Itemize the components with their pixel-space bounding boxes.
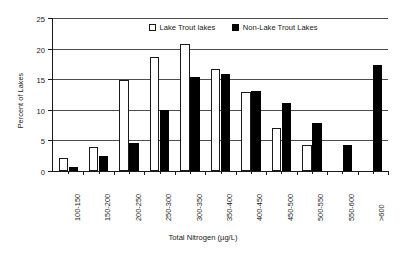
y-axis-title: Percent of Lakes [14,50,28,150]
x-tick [236,171,237,175]
x-tick-minor [68,171,69,174]
y-tick-label-10: 10 [37,106,45,115]
bar [89,147,98,171]
bar-group [327,18,357,171]
x-tick [175,171,176,175]
x-tick-minor [129,171,130,174]
x-tick [358,171,359,175]
bar [272,128,281,171]
bar [180,44,189,171]
x-tick [83,171,84,175]
legend-entry-non-lake-trout-lakes: Non-Lake Trout Lakes [232,23,317,32]
bar [99,156,108,171]
x-axis-title: Total Nitrogen (µg/L) [0,233,406,242]
x-tick-minor [373,171,374,174]
legend-entry-lake-trout-lakes: Lake Trout lakes [149,23,215,32]
bar [302,145,311,171]
bar [59,158,68,171]
x-tick-minor [342,171,343,174]
y-tick-label-15: 15 [37,76,45,85]
x-tick [388,171,389,175]
x-tick [297,171,298,175]
x-tick-minor [221,171,222,174]
bar [160,110,169,171]
bar [282,103,291,171]
bar [129,143,138,171]
x-tick-minor [251,171,252,174]
bar [211,69,220,171]
x-tick-minor [190,171,191,174]
x-tick [327,171,328,175]
bar [119,80,128,171]
bar-group [205,18,235,171]
legend-swatch-filled-icon [232,24,239,31]
x-tick-minor [99,171,100,174]
legend-swatch-open-icon [149,24,156,31]
y-tick-label-0: 0 [41,168,45,177]
bar [150,57,159,171]
bar [241,92,250,171]
bar [312,123,321,171]
x-tick [266,171,267,175]
y-tick-label-5: 5 [41,137,45,146]
x-tick [144,171,145,175]
bar [373,65,382,171]
x-tick-label: >600 [333,178,377,189]
bar [69,167,78,171]
bar-group [175,18,205,171]
y-tick-label-20: 20 [37,45,45,54]
bar-group [358,18,388,171]
nitrogen-histogram-figure: Percent of Lakes 0510152025 Lake Trout l… [0,0,406,253]
bar-group [236,18,266,171]
bar [343,145,352,171]
x-tick [114,171,115,175]
x-tick-label-text: >600 [377,178,386,222]
x-tick [205,171,206,175]
y-tick-0: 0 [48,171,53,172]
legend-label-lake-trout-lakes: Lake Trout lakes [160,23,216,32]
bar-group [53,18,83,171]
y-tick-label-25: 25 [37,15,45,24]
bar-group [83,18,113,171]
chart-legend: Lake Trout lakes Non-Lake Trout Lakes [149,23,317,32]
plot-area: 0510152025 [52,18,388,172]
x-tick-minor [312,171,313,174]
x-tick-minor [160,171,161,174]
bar [221,74,230,171]
bar-group [144,18,174,171]
bar [251,91,260,171]
bar-group [266,18,296,171]
bar-group [297,18,327,171]
bar-group [114,18,144,171]
legend-label-non-lake-trout-lakes: Non-Lake Trout Lakes [243,23,318,32]
bar [190,77,199,171]
x-tick-minor [281,171,282,174]
